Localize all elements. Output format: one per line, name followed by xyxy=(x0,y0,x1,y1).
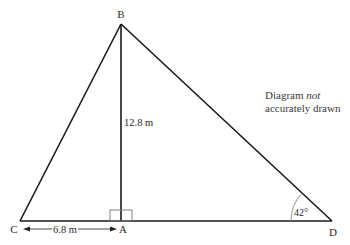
length-ca: 6.8 m xyxy=(53,224,77,235)
side-bc xyxy=(20,24,121,221)
label-b: B xyxy=(117,8,124,20)
note-text: Diagram xyxy=(265,89,306,101)
label-c: C xyxy=(10,223,17,235)
note-line-1: Diagram not xyxy=(265,89,321,101)
triangle-diagram: B C A D 12.8 m 6.8 m 42° Diagram not acc… xyxy=(0,0,350,245)
note-line-2: accurately drawn xyxy=(265,102,341,114)
angle-d-value: 42° xyxy=(294,207,308,218)
label-a: A xyxy=(119,223,127,235)
note-emphasis: not xyxy=(306,89,321,101)
label-d: D xyxy=(329,226,337,238)
length-ba: 12.8 m xyxy=(124,117,153,128)
